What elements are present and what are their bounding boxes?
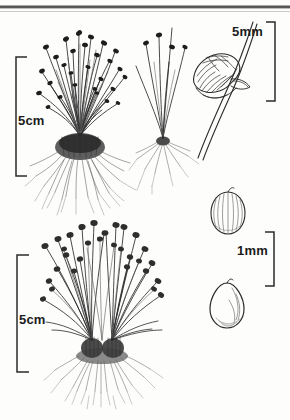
scale-label-5mm: 5mm	[232, 24, 263, 39]
spikelet-culm	[198, 22, 257, 160]
single-plant-culms	[136, 28, 185, 138]
upper-roots-fine	[25, 176, 136, 215]
lower-basal-clumps	[76, 337, 128, 364]
figure-lower-habit	[39, 220, 165, 409]
scale-bracket-1mm	[265, 232, 274, 286]
botanical-plate: 5cm 5cm 5mm 1mm	[0, 0, 290, 420]
spikelet-body	[194, 54, 250, 98]
upper-spikelets	[36, 29, 129, 110]
lower-culms	[44, 224, 160, 340]
figure-achene-ovate	[210, 279, 244, 328]
lower-heads	[39, 220, 165, 303]
upper-basal-crown	[55, 133, 105, 160]
achene-ribs	[214, 193, 243, 233]
figure-single-plant	[129, 28, 199, 194]
scale-bracket-5mm	[266, 22, 275, 101]
illustration-canvas	[0, 0, 290, 420]
scale-label-upper-5cm: 5cm	[18, 113, 45, 128]
figure-achene-ribbed	[211, 188, 245, 234]
scale-label-lower-5cm: 5cm	[19, 312, 46, 327]
scale-label-1mm: 1mm	[237, 243, 268, 258]
scan-artifact-line	[0, 5, 290, 9]
achene-shading	[229, 288, 240, 323]
single-plant-roots-fine	[129, 156, 199, 194]
lower-roots-fine	[44, 369, 163, 409]
scan-artifact-line-secondary	[0, 11, 290, 12]
figure-spikelet-enlarged	[194, 22, 257, 160]
single-plant-spikelets	[142, 32, 188, 50]
